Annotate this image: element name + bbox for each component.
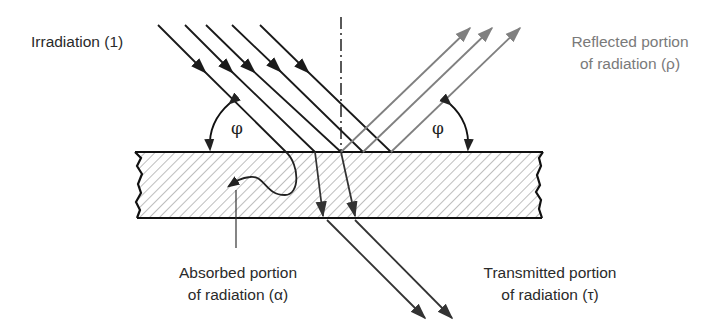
absorbed-label-line1: Absorbed portion — [143, 262, 333, 284]
material-slab — [135, 152, 543, 218]
reflected-ray-1 — [341, 28, 470, 152]
reflected-label-line2: of radiation (ρ) — [540, 53, 717, 75]
incident-ray-5 — [260, 25, 391, 152]
reflected-ray-3 — [391, 28, 520, 152]
absorbed-label: Absorbed portion of radiation (α) — [143, 262, 333, 306]
incident-ray-1 — [158, 25, 286, 152]
transmitted-ray-1 — [327, 220, 425, 318]
transmitted-label-line1: Transmitted portion — [450, 262, 650, 284]
transmitted-label: Transmitted portion of radiation (τ) — [450, 262, 650, 306]
reflected-label-line1: Reflected portion — [540, 31, 717, 53]
reflected-ray-2 — [363, 28, 492, 152]
incident-rays — [158, 25, 391, 152]
incident-ray-4 — [232, 25, 363, 152]
incident-ray-2 — [185, 25, 315, 152]
angle-arc-right — [450, 104, 468, 149]
angle-phi-right-label: φ — [432, 118, 444, 138]
irradiation-label: Irradiation (1) — [31, 31, 123, 53]
reflected-rays — [341, 28, 520, 152]
incident-ray-3 — [206, 25, 341, 152]
transmitted-label-line2: of radiation (τ) — [450, 284, 650, 306]
angle-arc-left — [210, 103, 230, 149]
transmitted-ray-2 — [355, 220, 452, 318]
angle-phi-left-label: φ — [231, 118, 243, 138]
absorbed-label-line2: of radiation (α) — [143, 284, 333, 306]
reflected-label: Reflected portion of radiation (ρ) — [540, 31, 717, 75]
